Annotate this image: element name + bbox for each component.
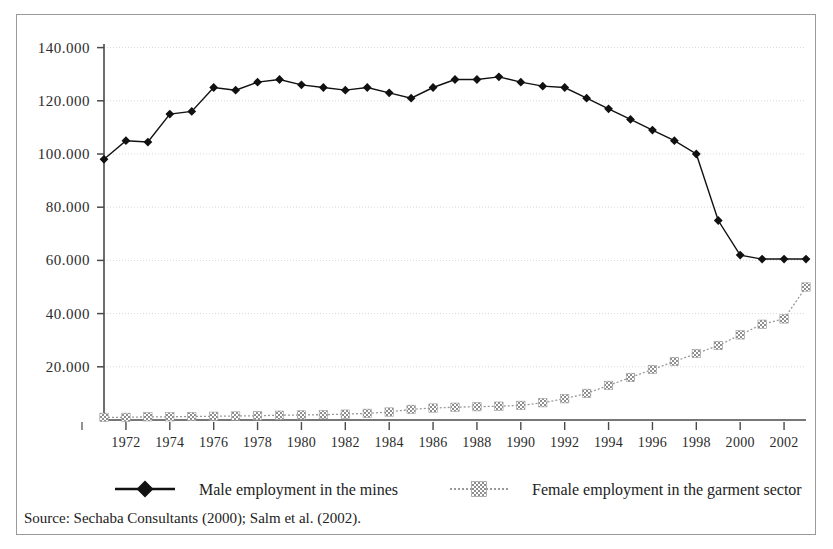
- y-tick-label: 120.000: [38, 93, 90, 109]
- x-tick-label: 1978: [243, 435, 272, 450]
- female-data-point: [758, 320, 766, 328]
- female-data-point: [385, 408, 393, 416]
- male-data-point: [516, 78, 525, 87]
- x-tick-label: 2000: [726, 435, 755, 450]
- female-data-point: [144, 413, 152, 421]
- x-tick-label: 1982: [331, 435, 360, 450]
- x-tick-label: 1974: [155, 435, 184, 450]
- legend-marker-filled-diamond-icon: [137, 481, 154, 498]
- plot-area: 20.00040.00060.00080.000100.000120.00014…: [0, 0, 833, 549]
- male-data-point: [451, 75, 460, 84]
- female-data-point: [736, 331, 744, 339]
- x-tick-label: 1990: [506, 435, 535, 450]
- male-data-point: [604, 104, 613, 113]
- male-data-point: [780, 255, 789, 264]
- female-data-point: [100, 413, 108, 421]
- female-data-point: [648, 365, 656, 373]
- female-data-point: [692, 349, 700, 357]
- female-data-point: [209, 412, 217, 420]
- x-tick-label: 1998: [682, 435, 711, 450]
- male-data-point: [582, 94, 591, 103]
- y-tick-label: 20.000: [46, 359, 90, 375]
- x-tick-label: 1986: [418, 435, 447, 450]
- legend-marker-checkered-square-icon: [472, 482, 487, 497]
- legend-label-female: Female employment in the garment sector: [532, 481, 802, 499]
- male-data-point: [648, 126, 657, 135]
- series-female-employment: [100, 283, 810, 422]
- male-data-point: [736, 251, 745, 260]
- female-data-point: [517, 401, 525, 409]
- female-data-point: [539, 399, 547, 407]
- male-data-point: [670, 136, 679, 145]
- male-data-point: [560, 83, 569, 92]
- male-data-point: [714, 216, 723, 225]
- female-data-point: [495, 402, 503, 410]
- female-data-point: [253, 412, 261, 420]
- chart-figure: 20.00040.00060.00080.000100.000120.00014…: [0, 0, 833, 549]
- female-data-point: [451, 403, 459, 411]
- x-tick-label: 1994: [594, 435, 623, 450]
- female-data-point: [780, 315, 788, 323]
- y-tick-label: 60.000: [46, 252, 90, 268]
- female-data-point: [670, 357, 678, 365]
- chart-svg: 20.00040.00060.00080.000100.000120.00014…: [0, 0, 833, 549]
- y-tick-label: 100.000: [38, 146, 90, 162]
- x-tick-label: 1988: [462, 435, 491, 450]
- female-data-point: [560, 395, 568, 403]
- male-data-point: [253, 78, 262, 87]
- male-data-point: [385, 88, 394, 97]
- female-data-point: [473, 403, 481, 411]
- y-tick-label: 80.000: [46, 199, 90, 215]
- male-data-point: [341, 86, 350, 95]
- male-data-point: [407, 94, 416, 103]
- female-data-point: [363, 409, 371, 417]
- female-data-point: [275, 411, 283, 419]
- female-data-point: [341, 410, 349, 418]
- female-data-point: [319, 410, 327, 418]
- male-series-line: [104, 77, 806, 259]
- female-data-point: [297, 411, 305, 419]
- x-tick-label: 2002: [769, 435, 798, 450]
- x-tick-label: 1992: [550, 435, 579, 450]
- male-data-point: [473, 75, 482, 84]
- female-data-point: [122, 413, 130, 421]
- male-data-point: [275, 75, 284, 84]
- x-tick-label: 1984: [375, 435, 404, 450]
- female-data-point: [604, 381, 612, 389]
- x-tick-label: 1976: [199, 435, 228, 450]
- female-data-point: [188, 412, 196, 420]
- male-data-point: [231, 86, 240, 95]
- x-axis-tick-labels: 1972197419761978198019821984198619881990…: [111, 435, 798, 450]
- male-data-point: [538, 82, 547, 91]
- y-axis-tick-labels: 20.00040.00060.00080.000100.000120.00014…: [38, 40, 90, 375]
- male-data-point: [692, 150, 701, 159]
- source-note-text: Source: Sechaba Consultants (2000); Salm…: [24, 510, 361, 527]
- female-data-point: [407, 405, 415, 413]
- female-data-point: [166, 413, 174, 421]
- x-tick-label: 1996: [638, 435, 667, 450]
- source-note: Source: Sechaba Consultants (2000); Salm…: [24, 510, 361, 527]
- female-data-point: [714, 341, 722, 349]
- male-data-point: [363, 83, 372, 92]
- female-data-point: [231, 412, 239, 420]
- male-data-point: [297, 80, 306, 89]
- male-data-point: [758, 255, 767, 264]
- y-tick-label: 40.000: [46, 306, 90, 322]
- chart-legend: Male employment in the minesFemale emplo…: [115, 481, 802, 500]
- male-data-point: [319, 83, 328, 92]
- male-data-point: [494, 72, 503, 81]
- y-axis-ticks: [97, 48, 104, 367]
- male-data-point: [626, 115, 635, 124]
- gridlines: [104, 48, 806, 367]
- female-data-point: [802, 283, 810, 291]
- x-tick-label: 1972: [111, 435, 140, 450]
- female-data-point: [582, 389, 590, 397]
- female-data-point: [429, 404, 437, 412]
- male-data-point: [802, 255, 811, 264]
- x-tick-label: 1980: [287, 435, 316, 450]
- y-tick-label: 140.000: [38, 40, 90, 56]
- male-data-point: [429, 83, 438, 92]
- legend-label-male: Male employment in the mines: [199, 481, 398, 499]
- female-data-point: [626, 373, 634, 381]
- x-axis-ticks: [82, 422, 784, 430]
